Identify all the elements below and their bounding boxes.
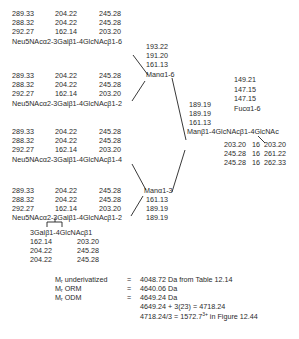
mass-value: 245.28: [224, 150, 246, 157]
mass-value: 288.32: [12, 81, 34, 88]
mass-value: 16: [252, 141, 260, 148]
mass-value: 161.13: [189, 119, 211, 126]
mass-value: 289.33: [12, 128, 34, 135]
mass-value: 204.22: [55, 10, 77, 17]
calc-line: 4718.24/3 = 1572.73+ in Figure 12.44: [140, 312, 258, 320]
mass-value: 292.27: [12, 90, 34, 97]
mass-value: 203.20: [99, 90, 121, 97]
glycan-label: Fucα1-6: [234, 105, 261, 112]
mass-value: 162.14: [30, 238, 52, 245]
mass-value: 245.28: [77, 247, 99, 254]
mass-value: 4048.72 Da from Table 12.14: [140, 276, 233, 283]
mass-value: 4640.06 Da: [140, 285, 177, 292]
mass-value: 289.33: [12, 187, 34, 194]
mass-value: 245.28: [99, 81, 121, 88]
glycan-label: Manβ1-4GlcNAcβ1-4GlcNAc: [187, 128, 279, 135]
mass-value: 204.22: [30, 247, 52, 254]
mass-value: 191.20: [146, 52, 168, 59]
mass-value: 245.28: [99, 10, 121, 17]
mass-value: 245.28: [77, 256, 99, 263]
glycan-label: Neu5NAcα2-3Galβ1-4GlcNAcβ1-6: [12, 38, 122, 45]
mass-value: 189.19: [189, 110, 211, 117]
equals-sign: =: [127, 276, 131, 283]
mass-value: 262.33: [264, 159, 286, 166]
mass-value: 189.19: [146, 214, 168, 221]
mass-value: 292.27: [12, 146, 34, 153]
mass-value: 203.20: [264, 141, 286, 148]
mass-value: 204.22: [55, 72, 77, 79]
mass-value: 289.33: [12, 72, 34, 79]
mass-value: 204.22: [55, 187, 77, 194]
mass-value: 149.21: [234, 76, 256, 83]
mass-value: 203.20: [77, 238, 99, 245]
mass-value: 161.13: [146, 61, 168, 68]
mass-label: Mr underivatized: [55, 276, 107, 284]
mass-value: 4649.24 Da: [140, 294, 177, 301]
mass-value: 162.14: [55, 146, 77, 153]
mass-value: 193.22: [146, 43, 168, 50]
mass-value: 16: [252, 159, 260, 166]
mass-value: 245.28: [99, 137, 121, 144]
mass-value: 204.22: [30, 256, 52, 263]
mass-value: 245.28: [99, 187, 121, 194]
mass-value: 162.14: [55, 205, 77, 212]
glycan-label: Neu5NAcα2-3Galβ1-4GlcNAcβ1-2: [12, 214, 122, 221]
equals-sign: =: [127, 294, 131, 301]
mass-value: 162.14: [55, 90, 77, 97]
mass-value: 261.22: [264, 150, 286, 157]
mass-value: 203.20: [99, 146, 121, 153]
mass-value: 204.22: [55, 137, 77, 144]
mass-value: 292.27: [12, 28, 34, 35]
mass-label: Mr ORM: [55, 285, 81, 293]
mass-value: 288.32: [12, 19, 34, 26]
mass-value: 204.22: [55, 196, 77, 203]
glycan-label: 3Galβ1-4GlcNAcβ1: [30, 229, 92, 236]
mass-value: 204.22: [55, 128, 77, 135]
mass-value: 289.33: [12, 10, 34, 17]
mass-value: 162.14: [55, 28, 77, 35]
mass-value: 245.28: [99, 72, 121, 79]
mass-value: 161.13: [146, 196, 168, 203]
mass-value: 203.20: [99, 28, 121, 35]
mass-label: Mr ODM: [55, 294, 81, 302]
mass-value: 245.28: [224, 159, 246, 166]
glycan-label: Manα1-6: [146, 71, 175, 78]
mass-value: 203.20: [224, 141, 246, 148]
mass-value: 16: [252, 150, 260, 157]
mass-value: 292.27: [12, 205, 34, 212]
mass-value: 288.32: [12, 196, 34, 203]
mass-value: 245.28: [99, 128, 121, 135]
equals-sign: =: [127, 285, 131, 292]
mass-value: 288.32: [12, 137, 34, 144]
mass-value: 245.28: [99, 196, 121, 203]
mass-value: 147.15: [234, 95, 256, 102]
glycan-label: Manα1-3: [144, 187, 173, 194]
mass-value: 189.19: [146, 205, 168, 212]
mass-value: 245.28: [99, 19, 121, 26]
mass-value: 147.15: [234, 86, 256, 93]
glycan-label: Neu5NAcα2-3Galβ1-4GlcNAcβ1-2: [12, 100, 122, 107]
mass-value: 204.22: [55, 81, 77, 88]
mass-value: 204.22: [55, 19, 77, 26]
mass-value: 189.19: [189, 101, 211, 108]
mass-value: 203.20: [99, 205, 121, 212]
calc-line: 4649.24 + 3(23) = 4718.24: [140, 303, 225, 310]
glycan-label: Neu5NAcα2-3Galβ1-4GlcNAcβ1-4: [12, 156, 122, 163]
